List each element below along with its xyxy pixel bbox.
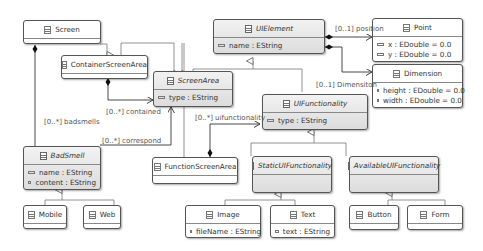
abstract-class-icon (348, 162, 350, 170)
class-icon (154, 163, 161, 171)
class-name: UIFunctionality (294, 99, 348, 108)
class-name: Button (367, 210, 391, 219)
attribute-icon (377, 99, 379, 102)
class-screen-area[interactable]: ScreenArea type : EString (153, 71, 233, 107)
abstract-class-icon (252, 162, 254, 170)
label-badsmells: [0..*] badsmells (44, 118, 100, 126)
class-name: ContainerScreenArea (71, 60, 147, 69)
attribute-icon (190, 230, 192, 233)
class-icon (290, 211, 297, 219)
class-icon (206, 211, 213, 219)
label-uifunctionality: [0..*] uifunctionality (195, 114, 265, 122)
attribute: width : EDouble = 0.0 (377, 95, 458, 105)
attribute: content : EString (28, 177, 96, 187)
class-icon (44, 26, 51, 34)
label-correspond: [0..*] correspond (102, 137, 161, 145)
class-name: Form (431, 210, 449, 219)
label-position: [0..1] position (335, 25, 384, 33)
class-icon (403, 24, 410, 32)
class-name: FunctionScreenArea (165, 162, 237, 171)
class-name: Dimension (404, 69, 442, 78)
attribute-icon (377, 53, 384, 56)
class-container-screen-area[interactable]: ContainerScreenArea (61, 55, 148, 79)
class-function-screen-area[interactable]: FunctionScreenArea (152, 157, 238, 184)
class-icon (28, 211, 35, 219)
class-name: ScreenArea (178, 76, 220, 85)
class-name: Text (301, 210, 316, 219)
class-name: UIElement (256, 24, 293, 33)
attribute-icon (28, 171, 35, 174)
class-web[interactable]: Web (83, 205, 121, 229)
class-icon (89, 211, 96, 219)
abstract-class-icon (40, 152, 47, 160)
attribute: type : EString (267, 115, 363, 125)
abstract-class-icon (283, 100, 290, 108)
class-name: Screen (55, 25, 80, 34)
attribute: height : EDouble = 0.0 (377, 85, 458, 95)
class-name: Image (217, 210, 240, 219)
class-point[interactable]: Point x : EDouble = 0.0 y : EDouble = 0.… (372, 18, 463, 62)
attribute: type : EString (158, 92, 228, 102)
attribute-icon (267, 119, 274, 122)
class-screen[interactable]: Screen (23, 20, 101, 44)
attribute-icon (377, 43, 384, 46)
class-available-ui-functionality[interactable]: AvailableUIFunctionality (349, 156, 439, 193)
class-name: BadSmell (51, 151, 85, 160)
abstract-class-icon (245, 25, 252, 33)
abstract-class-icon (167, 77, 174, 85)
attribute: name : EString (28, 167, 96, 177)
attribute: name : EString (218, 40, 320, 50)
attribute-icon (275, 230, 279, 233)
attribute-icon (218, 44, 225, 47)
class-form[interactable]: Form (407, 205, 463, 230)
attribute: x : EDouble = 0.0 (377, 39, 458, 49)
attribute-icon (158, 96, 165, 99)
attribute-icon (28, 181, 31, 184)
class-ui-element[interactable]: UIElement name : EString (213, 19, 325, 54)
label-contained: [0..*] contained (106, 108, 161, 116)
class-static-ui-functionality[interactable]: StaticUIFunctionality (252, 156, 332, 193)
class-name: Point (414, 23, 432, 32)
attribute: text : EString (275, 226, 330, 236)
class-mobile[interactable]: Mobile (23, 205, 67, 229)
attribute: y : EDouble = 0.0 (377, 49, 458, 59)
class-icon (356, 211, 363, 219)
class-name: Web (100, 210, 116, 219)
class-ui-functionality[interactable]: UIFunctionality type : EString (262, 94, 368, 130)
class-button[interactable]: Button (349, 205, 399, 230)
class-bad-smell[interactable]: BadSmell name : EString content : EStrin… (23, 146, 101, 190)
class-icon (393, 70, 400, 78)
attribute-icon (377, 89, 379, 92)
attribute: fileName : EString (190, 226, 256, 236)
class-image[interactable]: Image fileName : EString (185, 205, 261, 238)
class-icon (420, 211, 427, 219)
class-name: Mobile (39, 210, 63, 219)
class-icon (62, 61, 67, 69)
class-dimension[interactable]: Dimension height : EDouble = 0.0 width :… (372, 64, 463, 108)
class-name: StaticUIFunctionality (258, 161, 332, 170)
class-text[interactable]: Text text : EString (270, 205, 335, 238)
label-dimension: [0..1] Dimensiton (316, 81, 377, 89)
class-name: AvailableUIFunctionality (354, 161, 440, 170)
